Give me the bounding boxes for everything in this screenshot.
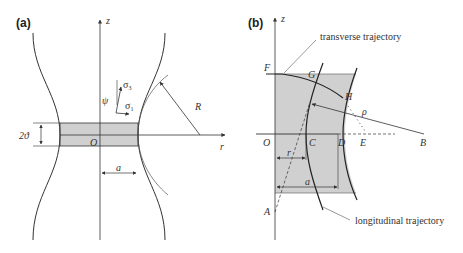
b-z-axis-label: z: [280, 13, 285, 24]
transverse-trajectory-label: transverse trajectory: [320, 31, 401, 42]
point-E: E: [359, 137, 366, 148]
neck-radius-label: a: [116, 162, 121, 173]
radius-R-label: R: [194, 101, 201, 112]
r-dim-label: r: [287, 147, 291, 158]
panel-a-label: (a): [16, 16, 31, 30]
r-axis-label: r: [220, 141, 224, 152]
neck-band: [60, 123, 138, 146]
left-profile: [33, 33, 60, 240]
sigma1-label: σ1: [125, 100, 133, 112]
sigma3-label: σ3: [123, 79, 131, 91]
point-D: D: [337, 137, 346, 148]
point-B: B: [420, 137, 426, 148]
panel-b-label: (b): [248, 16, 263, 30]
point-H: H: [344, 91, 353, 102]
point-G: G: [308, 69, 315, 80]
panel-b: (b) z ρ r a O C D: [248, 13, 444, 240]
psi-label: ψ: [102, 95, 109, 106]
rho-label: ρ: [361, 106, 367, 117]
point-C: C: [309, 137, 316, 148]
right-profile: [138, 33, 165, 240]
z-axis-label: z: [105, 15, 110, 26]
point-A: A: [263, 206, 271, 217]
radius-R-arrow: [160, 82, 200, 135]
longitudinal-callout-line: [323, 207, 350, 220]
shaded-region: [275, 74, 356, 193]
point-F: F: [263, 62, 271, 73]
longitudinal-trajectory-label: longitudinal trajectory: [355, 215, 444, 226]
a-dim-label: a: [305, 176, 310, 187]
necking-diagram: (a) z r O R 2ϑ a σ3 σ1 ψ: [0, 0, 463, 253]
panel-a: (a) z r O R 2ϑ a σ3 σ1 ψ: [16, 15, 225, 240]
point-O: O: [263, 137, 270, 148]
origin-label: O: [90, 137, 97, 148]
thickness-label: 2ϑ: [19, 130, 30, 141]
sigma1-arrow: [116, 113, 129, 114]
